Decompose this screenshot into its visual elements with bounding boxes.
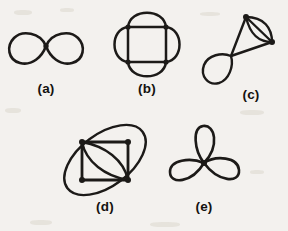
figure-b-square — [128, 27, 166, 62]
figure-d-vertex-bottom-right — [125, 177, 131, 183]
figure-b-label: (b) — [138, 81, 156, 96]
figure-d: (d) — [52, 111, 158, 214]
figure-b-vertex-top-left — [125, 24, 130, 29]
figure-a-center-vertex — [43, 43, 48, 48]
figure-c-left-edge — [231, 17, 246, 56]
figure-b: (b) — [115, 13, 180, 96]
figure-b-left-arc — [115, 27, 129, 62]
figure-d-lens-upper-arc — [82, 142, 128, 180]
figure-a: (a) — [9, 33, 83, 96]
figure-b-top-arc — [128, 13, 166, 27]
figure-d-ellipse — [52, 111, 158, 209]
figure-e: (e) — [170, 126, 239, 214]
figure-c-vertex-right — [269, 39, 275, 45]
figure-e-label: (e) — [195, 199, 212, 214]
figure-d-lens-lower-arc — [82, 142, 128, 180]
figure-c-label: (c) — [242, 87, 259, 102]
figure-d-vertex-bottom-left — [79, 177, 85, 183]
figure-a-label: (a) — [37, 81, 54, 96]
figure-b-vertex-bottom-left — [125, 59, 130, 64]
figure-b-bottom-arc — [128, 62, 166, 76]
figure-e-petal-top — [196, 126, 215, 163]
figure-c-lower-loop — [203, 54, 232, 83]
figure-d-vertex-top-left — [79, 139, 85, 145]
figure-d-square — [82, 142, 128, 180]
figure-canvas: (a) (b) — [0, 0, 288, 231]
figure-a-left-loop — [9, 33, 46, 63]
figure-c-right-edge — [231, 42, 272, 56]
figure-c: (c) — [203, 14, 275, 102]
figure-b-vertex-top-right — [163, 24, 168, 29]
figure-d-vertex-top-right — [125, 139, 131, 145]
figure-c-vertex-top — [243, 14, 249, 20]
figure-d-label: (d) — [96, 199, 114, 214]
figure-e-center-vertex — [201, 160, 207, 166]
figure-e-petal-left — [170, 160, 204, 180]
figure-b-right-arc — [166, 27, 180, 62]
figure-e-petal-right — [204, 158, 239, 179]
figure-b-vertex-bottom-right — [163, 59, 168, 64]
figure-page: (a) (b) — [0, 0, 288, 231]
figure-a-right-loop — [46, 33, 83, 63]
